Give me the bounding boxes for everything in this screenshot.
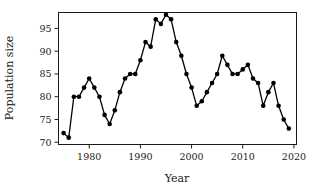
data-point (107, 122, 112, 127)
data-point (174, 40, 179, 45)
data-point (271, 81, 276, 86)
data-point (153, 17, 158, 22)
data-point (184, 72, 189, 77)
data-point (138, 58, 143, 63)
data-point (169, 17, 174, 22)
y-axis-ticks (55, 28, 59, 142)
data-point (133, 72, 138, 77)
data-point (256, 81, 261, 86)
data-point (225, 63, 230, 68)
data-point (240, 67, 245, 72)
x-tick-label: 2010 (231, 151, 255, 162)
x-axis-tick-labels: 19801990200020102020 (77, 151, 306, 162)
data-point (246, 63, 251, 68)
data-point (159, 22, 164, 27)
data-point (189, 85, 194, 90)
data-point (148, 44, 153, 49)
population-size-chart-figure: 707580859095 19801990200020102020 Year P… (0, 0, 319, 190)
population-series-points (61, 12, 291, 139)
data-point (179, 53, 184, 58)
y-axis-title: Population size (3, 36, 16, 120)
y-tick-label: 95 (39, 23, 51, 34)
x-axis-ticks (89, 145, 294, 149)
x-axis-title: Year (164, 172, 190, 185)
data-point (261, 104, 266, 109)
data-point (200, 99, 205, 104)
chart-canvas: 707580859095 19801990200020102020 Year P… (0, 0, 319, 190)
data-point (97, 94, 102, 99)
data-point (66, 135, 71, 140)
data-point (128, 72, 133, 77)
y-axis-tick-labels: 707580859095 (39, 23, 51, 148)
data-point (143, 40, 148, 45)
data-point (72, 94, 77, 99)
data-point (123, 76, 128, 81)
data-point (276, 104, 281, 109)
y-tick-label: 75 (39, 114, 51, 125)
y-tick-label: 80 (39, 91, 51, 102)
x-tick-label: 1980 (77, 151, 101, 162)
y-tick-label: 90 (39, 46, 51, 57)
x-tick-label: 2020 (282, 151, 306, 162)
data-point (220, 53, 225, 58)
data-point (118, 90, 123, 95)
data-point (205, 90, 210, 95)
data-point (287, 126, 292, 131)
data-point (77, 94, 82, 99)
data-point (87, 76, 92, 81)
data-point (194, 104, 199, 109)
data-point (266, 90, 271, 95)
data-point (102, 113, 107, 118)
x-tick-label: 1990 (128, 151, 152, 162)
data-point (281, 117, 286, 122)
y-tick-label: 85 (39, 68, 51, 79)
data-point (210, 81, 215, 86)
data-point (164, 12, 169, 17)
y-tick-label: 70 (39, 137, 51, 148)
data-point (92, 85, 97, 90)
data-point (230, 72, 235, 77)
data-point (113, 108, 118, 113)
plot-frame (59, 13, 297, 145)
data-point (215, 72, 220, 77)
data-point (251, 76, 256, 81)
population-series-line (64, 15, 289, 138)
data-point (61, 131, 66, 136)
data-point (82, 85, 87, 90)
x-tick-label: 2000 (179, 151, 203, 162)
data-point (235, 72, 240, 77)
